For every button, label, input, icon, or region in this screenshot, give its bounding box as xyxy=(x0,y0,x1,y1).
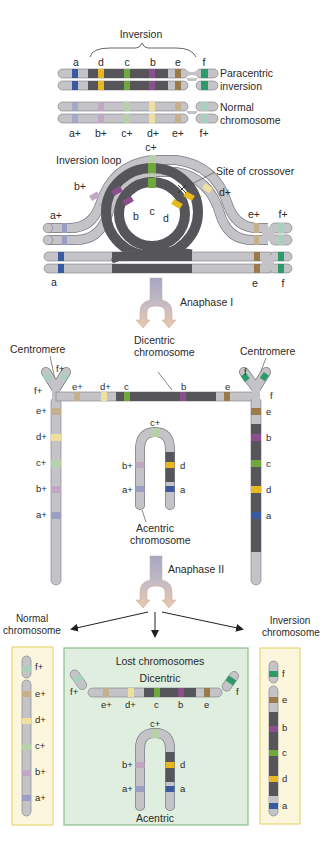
inversion-bracket xyxy=(90,43,196,57)
paracentric-inversion-diagram: Inversion a d c b e f xyxy=(0,0,326,859)
right-inversion-chromosome xyxy=(251,397,261,585)
gene-label: b+ xyxy=(35,766,46,777)
gene-label: c+ xyxy=(35,740,46,751)
gene-label: b+ xyxy=(122,759,133,770)
centromere-label-right: Centromere xyxy=(240,345,296,357)
gene-label: d xyxy=(98,56,104,68)
gene-label: e+ xyxy=(172,127,184,139)
gene-label: b xyxy=(282,722,287,733)
gene-label: e xyxy=(175,56,181,68)
normal-label: Normal xyxy=(220,101,254,113)
gene-label: b+ xyxy=(95,127,107,139)
gene-label: a+ xyxy=(36,509,47,520)
gene-label: e xyxy=(266,406,271,417)
gene-label: d+ xyxy=(147,127,159,139)
gene-label: d xyxy=(266,484,271,495)
gene-label: d+ xyxy=(100,381,111,392)
centromere-label-left: Centromere xyxy=(10,343,66,355)
gene-label: e+ xyxy=(101,699,112,710)
lost-chromosomes-box: Lost chromosomes Dicentric f+ e+ d+ c b … xyxy=(64,648,248,825)
inverted-chromosome xyxy=(58,69,218,90)
gene-label: a+ xyxy=(35,792,46,803)
gene-label: e xyxy=(204,699,209,710)
gene-label: e+ xyxy=(72,381,83,392)
acentric-label: chromosome xyxy=(130,534,191,546)
gene-label: f+ xyxy=(278,208,287,220)
gene-label: c xyxy=(154,699,159,710)
gene-label: f xyxy=(203,56,206,68)
gene-label: b xyxy=(150,56,156,68)
gene-label: d xyxy=(180,759,185,770)
gene-label: f+ xyxy=(56,363,65,374)
gene-label: e+ xyxy=(35,688,46,699)
gene-label: b xyxy=(181,381,186,392)
inversion-loop-label: Inversion loop xyxy=(56,154,122,166)
gene-label: c xyxy=(124,56,129,68)
inversion-chromosome-box: f e b c d a xyxy=(260,648,300,824)
gene-label: a+ xyxy=(69,127,81,139)
gene-label: b xyxy=(266,432,271,443)
gene-label: b xyxy=(178,699,183,710)
section-anaphase-1-result: Centromere Centromere Dicentric chromoso… xyxy=(10,334,296,585)
gene-label: d+ xyxy=(219,186,231,198)
gene-label: e+ xyxy=(248,208,260,220)
gene-label: f xyxy=(282,277,285,289)
gene-label: f xyxy=(244,366,247,377)
crossover-label: Site of crossover xyxy=(216,165,295,177)
dicentric-label: Dicentric xyxy=(140,672,181,684)
section-paracentric-inversion: Inversion a d c b e f xyxy=(58,28,281,139)
normal-label: chromosome xyxy=(220,114,281,126)
gene-label: f xyxy=(282,668,285,679)
gene-label: c+ xyxy=(145,141,156,153)
gene-label: c xyxy=(149,205,154,217)
left-normal-chromosome xyxy=(51,397,61,585)
gene-label: c+ xyxy=(150,718,161,729)
gene-label: c+ xyxy=(36,457,47,468)
normal-result-label: Normal xyxy=(16,613,48,624)
section-inversion-loop: Inversion loop Site of crossover c+ b+ d… xyxy=(43,141,294,289)
gene-label: f xyxy=(236,686,239,697)
gene-label: c xyxy=(266,458,271,469)
gene-label: e+ xyxy=(36,405,47,416)
inversion-result-label: chromosome xyxy=(262,627,320,638)
acentric-label: Acentric xyxy=(136,812,174,824)
gene-label: e xyxy=(252,277,258,289)
acentric-chromosome xyxy=(136,428,175,505)
gene-label: c xyxy=(282,747,287,758)
gene-label: d xyxy=(163,212,169,224)
arrow-to-inversion xyxy=(162,612,242,629)
gene-label: f+ xyxy=(35,661,44,672)
paracentric-label: inversion xyxy=(220,80,262,92)
gene-label: d xyxy=(282,773,287,784)
paracentric-label: Paracentric xyxy=(220,67,273,79)
normal-chromosome-box: f+ e+ d+ c+ b+ a+ xyxy=(12,647,53,825)
normal-result-label: chromosome xyxy=(3,625,61,636)
acentric-label: Acentric xyxy=(136,522,174,534)
gene-label: d+ xyxy=(125,699,136,710)
dicentric-label: Dicentric xyxy=(134,334,175,346)
gene-label: d xyxy=(180,460,185,471)
gene-label: f+ xyxy=(70,686,79,697)
gene-label: c+ xyxy=(150,417,161,428)
gene-label: a+ xyxy=(122,484,133,495)
gene-label: a+ xyxy=(50,209,62,221)
gene-label: d+ xyxy=(35,714,46,725)
lost-chromosomes-label: Lost chromosomes xyxy=(116,655,205,667)
anaphase-1-arrow: Anaphase I xyxy=(136,278,233,328)
arrow-to-normal xyxy=(72,612,148,629)
inversion-result-label: Inversion xyxy=(270,615,311,626)
gene-label: b+ xyxy=(122,460,133,471)
gene-label: f+ xyxy=(199,127,208,139)
gene-label: a xyxy=(266,510,272,521)
gene-label: b+ xyxy=(36,483,47,494)
gene-label: a xyxy=(282,800,288,811)
gene-label: a xyxy=(180,484,186,495)
gene-label: f+ xyxy=(34,385,43,396)
gene-label: b xyxy=(133,210,139,222)
gene-label: a xyxy=(180,783,186,794)
gene-label: f xyxy=(270,390,273,401)
dicentric-label: chromosome xyxy=(134,346,195,358)
gene-label: e xyxy=(225,381,230,392)
gene-label: a xyxy=(51,276,57,288)
anaphase-2-label: Anaphase II xyxy=(168,563,224,575)
